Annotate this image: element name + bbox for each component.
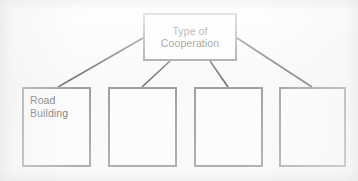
node-root-label: Type of Cooperation	[161, 25, 219, 50]
node-child-3-empty[interactable]	[194, 87, 263, 167]
node-child-2-empty[interactable]	[108, 87, 177, 167]
diagram-canvas: Type of Cooperation Road Building	[0, 0, 358, 181]
node-type-of-cooperation[interactable]: Type of Cooperation	[143, 13, 237, 61]
node-child-4-empty[interactable]	[279, 87, 346, 167]
connector-root-to-child-3	[210, 61, 228, 87]
node-child-1-label: Road Building	[24, 89, 89, 119]
connector-root-to-child-2	[142, 61, 170, 87]
node-road-building[interactable]: Road Building	[22, 87, 91, 167]
connector-root-to-child-4	[237, 38, 312, 87]
connector-root-to-child-1	[58, 38, 143, 87]
